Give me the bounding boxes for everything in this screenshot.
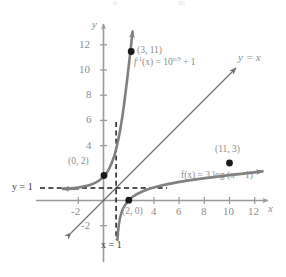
- asymptote-label-x-equals-1: x = 1: [101, 240, 122, 250]
- math-graph-figure: y x 12 10 8 6 4 -2 -2 4 6 8 10 12 (3, 11…: [0, 0, 286, 277]
- y-tick-label--2: -2: [81, 220, 90, 231]
- graph-canvas: [0, 0, 286, 277]
- point-11-3: [226, 160, 233, 167]
- x-tick-label-12: 12: [248, 206, 259, 217]
- x-tick-label-6: 6: [176, 206, 182, 217]
- x-tick-label--2: -2: [71, 206, 80, 217]
- inverse-fn-exponent: x/3: [173, 55, 181, 62]
- inverse-function-label: f-1(x) = 10x/3 + 1: [134, 58, 196, 68]
- point-label-2-0: (2, 0): [122, 207, 143, 217]
- inverse-fn-tail: + 1: [181, 57, 196, 67]
- point-3-11: [128, 48, 135, 55]
- point-0-2: [101, 172, 108, 179]
- y-tick-label-10: 10: [79, 64, 90, 75]
- log-function-label: f(x) = 3 log (x − 1): [181, 171, 253, 181]
- inverse-fn-body: (x) = 10: [142, 57, 173, 67]
- y-axis-label: y: [92, 19, 97, 30]
- x-tick-label-4: 4: [151, 206, 157, 217]
- y-tick-label-4: 4: [86, 140, 92, 151]
- line-label-y-equals-x: y = x: [238, 52, 261, 63]
- y-tick-label-8: 8: [86, 89, 92, 100]
- x-axis-label: x: [268, 203, 273, 214]
- y-tick-label-12: 12: [79, 39, 90, 50]
- point-2-0: [125, 197, 132, 204]
- x-tick-label-8: 8: [201, 206, 207, 217]
- point-label-0-2: (0, 2): [68, 157, 89, 167]
- x-tick-label-10: 10: [223, 206, 234, 217]
- asymptote-label-y-equals-1: y = 1: [12, 182, 33, 192]
- y-tick-label-6: 6: [86, 114, 92, 125]
- point-label-11-3: (11, 3): [215, 145, 240, 155]
